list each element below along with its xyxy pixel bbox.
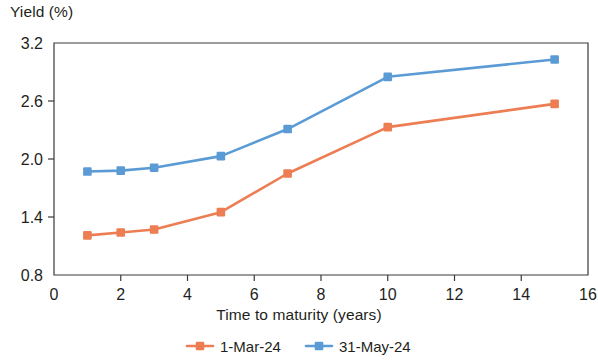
data-point-marker: [217, 208, 226, 217]
data-point-marker: [116, 228, 125, 237]
yield-curve-chart: Yield (%) Time to maturity (years) 0.81.…: [0, 0, 598, 363]
data-point-marker: [83, 167, 92, 176]
data-point-marker: [550, 100, 559, 109]
y-tick-label: 2.0: [21, 151, 43, 168]
series-layer: [83, 55, 559, 240]
data-point-marker: [217, 152, 226, 161]
legend-item-1[interactable]: 1-Mar-24: [187, 338, 281, 355]
y-axis-ticks: 0.81.42.02.63.2: [21, 35, 54, 284]
x-tick-label: 6: [250, 286, 259, 303]
y-tick-label: 0.8: [21, 267, 43, 284]
legend-marker-swatch: [196, 342, 205, 351]
x-tick-label: 10: [379, 286, 397, 303]
data-point-marker: [283, 169, 292, 178]
data-point-marker: [383, 73, 392, 82]
x-axis-ticks: 0246810121416: [50, 275, 597, 303]
data-point-marker: [116, 166, 125, 175]
x-tick-label: 8: [317, 286, 326, 303]
y-tick-label: 2.6: [21, 93, 43, 110]
data-point-marker: [383, 123, 392, 132]
series-line: [87, 59, 554, 171]
data-point-marker: [283, 125, 292, 134]
data-point-marker: [150, 163, 159, 172]
legend-item-2[interactable]: 31-May-24: [306, 338, 411, 355]
y-tick-label: 3.2: [21, 35, 43, 52]
legend-item-label: 31-May-24: [339, 338, 411, 355]
plot-area: 0.81.42.02.63.2 0246810121416 1-Mar-2431…: [0, 0, 598, 363]
x-tick-label: 2: [116, 286, 125, 303]
data-point-marker: [550, 55, 559, 64]
legend-item-label: 1-Mar-24: [220, 338, 281, 355]
legend-marker-swatch: [315, 342, 324, 351]
x-tick-label: 4: [183, 286, 192, 303]
x-tick-label: 0: [50, 286, 59, 303]
y-tick-label: 1.4: [21, 209, 43, 226]
legend: 1-Mar-2431-May-24: [187, 338, 411, 355]
x-tick-label: 12: [446, 286, 464, 303]
x-tick-label: 14: [512, 286, 530, 303]
data-point-marker: [83, 231, 92, 240]
x-tick-label: 16: [579, 286, 597, 303]
data-point-marker: [150, 225, 159, 234]
